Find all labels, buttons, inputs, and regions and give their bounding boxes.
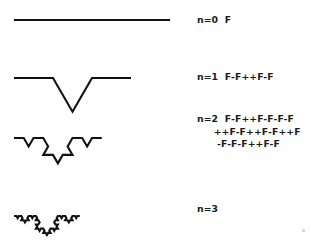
label-n2-text: n=2 F-F++F-F-F-F ++F-F++F-F++F -F-F-F++F… — [197, 113, 301, 149]
koch-curve-n1 — [14, 78, 131, 112]
label-n0: n=0 F — [197, 14, 231, 27]
label-n2: n=2 F-F++F-F-F-F ++F-F++F-F++F -F-F-F++F… — [197, 113, 301, 151]
label-n3: n=3 — [197, 203, 218, 216]
koch-curve-n2 — [14, 138, 102, 163]
label-n0-text: n=0 F — [197, 14, 231, 25]
label-n1-text: n=1 F-F++F-F — [197, 71, 274, 82]
label-n1: n=1 F-F++F-F — [197, 71, 274, 84]
koch-curve-figure: n=0 F n=1 F-F++F-F n=2 F-F++F-F-F-F ++F-… — [0, 0, 311, 240]
label-n3-text: n=3 — [197, 203, 218, 214]
page-speck — [302, 229, 305, 232]
koch-curve-n3 — [14, 216, 80, 235]
